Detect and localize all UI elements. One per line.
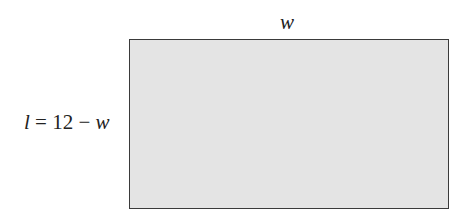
rectangle-shape bbox=[129, 39, 449, 209]
length-expression: = 12 − bbox=[30, 110, 96, 134]
length-label: l = 12 − w bbox=[24, 110, 110, 134]
width-label: w bbox=[280, 10, 294, 34]
length-operand: w bbox=[96, 110, 110, 134]
